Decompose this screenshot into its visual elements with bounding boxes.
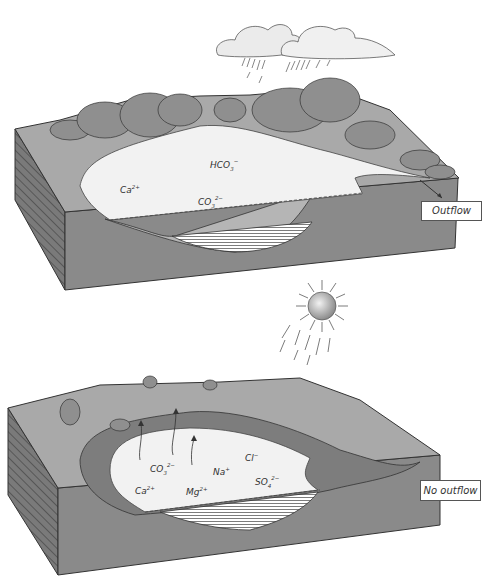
top-panel-open-lake: HCO3− Ca2+ CO32− bbox=[15, 25, 459, 290]
outflow-callout: Outflow bbox=[421, 201, 482, 221]
bottom-panel-closed-basin: CO32− Na+ Cl− SO42− Ca2+ Mg2+ bbox=[8, 376, 440, 575]
rain-clouds-icon bbox=[216, 25, 395, 83]
no-outflow-callout: No outflow bbox=[420, 480, 481, 501]
sun-evaporation-icon bbox=[280, 280, 348, 365]
